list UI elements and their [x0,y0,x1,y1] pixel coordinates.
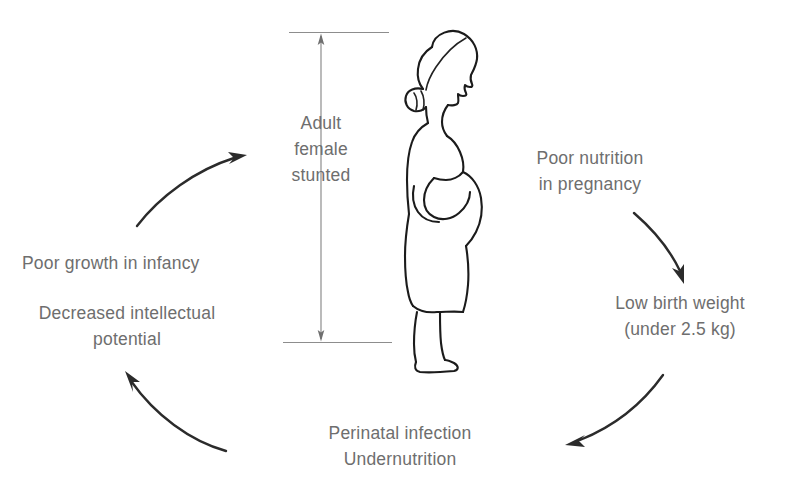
hair-bun-detail-2 [421,91,424,110]
arrow-bottom-right-left-head [565,435,585,447]
diagram-canvas: Adult female stunted Poor nutrition in p… [0,0,789,499]
arrow-bottom-right-left-shaft [580,375,663,440]
pregnant-woman-figure [405,31,482,372]
leg-back [414,312,417,362]
node-label-poor-nutrition-in-pregnancy: Poor nutrition in pregnancy [505,145,675,197]
dress-front [463,246,468,312]
node-label-adult-female-stunted: Adult female stunted [258,110,384,188]
nape [426,107,428,123]
node-label-decreased-intellectual-potential: Decreased intellectual potential [22,300,232,352]
arrow-right-down [634,213,684,284]
belly-outline [463,172,482,246]
dress-back [405,214,413,306]
arrow-bottom-left-up-shaft [131,381,226,451]
arrow-bottom-right-left [565,375,663,447]
node-label-poor-growth-in-infancy: Poor growth in infancy [22,250,242,276]
arrow-top-left-right-shaft [137,158,234,226]
neck-front [442,105,448,136]
leg-front [440,313,445,360]
hair-crown [418,47,432,89]
hair-bun-detail-1 [414,93,417,110]
arm-on-belly [424,178,470,219]
arrow-right-down-shaft [634,213,680,271]
node-label-perinatal-infection-undernutrition: Perinatal infection Undernutrition [300,420,500,472]
arrow-top-left-right [137,152,247,226]
chest-front [447,136,463,172]
arrow-bottom-left-up [125,371,226,451]
node-label-low-birth-weight: Low birth weight (under 2.5 kg) [590,290,770,342]
foot [415,360,458,372]
bust-underline [434,172,463,180]
dress-hem [413,306,463,312]
head-face-profile [432,31,477,105]
